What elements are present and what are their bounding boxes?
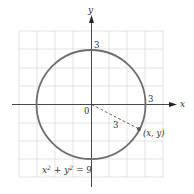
y-axis-arrow-icon — [89, 15, 94, 23]
point-marker — [137, 127, 141, 131]
x-intercept-label: 3 — [148, 94, 153, 104]
radius-label: 3 — [113, 120, 118, 130]
x-axis-arrow-icon — [169, 102, 177, 107]
grid — [19, 31, 163, 177]
origin-label: 0 — [84, 106, 89, 116]
circle-diagram: y x 3 3 0 3 (x, y) x2 + y2 = 9 — [0, 0, 194, 194]
x-axis-label: x — [180, 99, 185, 109]
equation-label: x2 + y2 = 9 — [42, 164, 92, 176]
point-label: (x, y) — [143, 128, 165, 138]
y-intercept-label: 3 — [94, 40, 99, 50]
y-axis-label: y — [87, 5, 94, 15]
